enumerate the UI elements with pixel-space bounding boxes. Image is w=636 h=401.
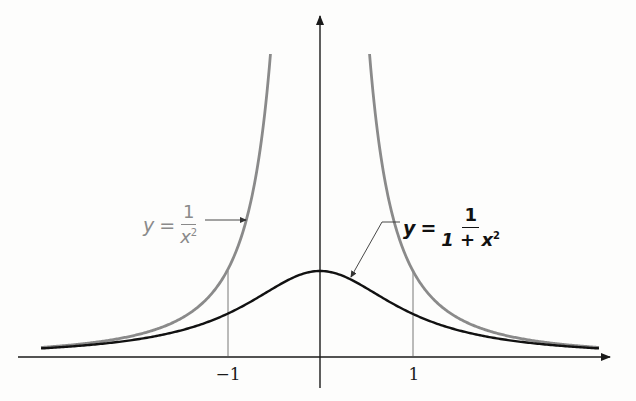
curve-inverse-square-right (370, 54, 599, 347)
label-one-over-one-plus-x-squared: y = 1 1 + x2 (403, 206, 500, 249)
label-black-denominator: 1 + x2 (441, 228, 500, 249)
label-gray-equals: = (159, 214, 175, 236)
label-black-den-expr: 1 + x (441, 229, 493, 250)
label-gray-denominator: x2 (180, 225, 197, 246)
label-gray-exponent: 2 (191, 227, 197, 238)
label-black-numerator: 1 (462, 206, 479, 228)
label-gray-lhs: y (143, 214, 154, 236)
label-gray-numerator: 1 (181, 203, 196, 225)
black-label-leader-arrow (351, 222, 400, 277)
label-black-equals: = (420, 217, 436, 239)
x-tick-label-pos1: 1 (409, 364, 420, 384)
label-gray-fraction: 1 x2 (180, 203, 197, 246)
label-black-fraction: 1 1 + x2 (441, 206, 500, 249)
curve-inverse-square-left (41, 54, 270, 347)
label-gray-den-var: x (180, 226, 191, 247)
plot-canvas (0, 0, 636, 401)
label-inverse-square: y = 1 x2 (143, 203, 197, 246)
label-black-lhs: y (403, 217, 415, 239)
label-black-exponent: 2 (493, 230, 500, 241)
x-tick-label-neg1: −1 (215, 364, 240, 384)
function-graph-figure: −1 1 y = 1 x2 y = 1 1 + x2 (0, 0, 636, 401)
